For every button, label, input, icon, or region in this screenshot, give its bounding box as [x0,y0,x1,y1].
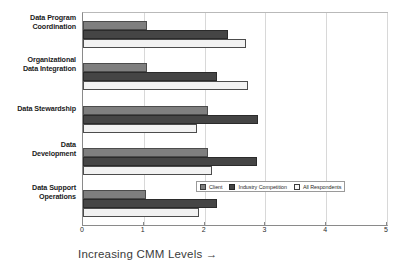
category-label-line: Data Integration [0,65,76,74]
x-tick-label: 5 [376,226,396,233]
bar [83,106,208,115]
bar [83,208,199,217]
legend-entry: Industry Competition [229,184,286,190]
x-tick-label: 1 [133,226,153,233]
bar [83,124,197,133]
legend-label: All Respondents [303,184,342,190]
category-label: Data Development [0,141,76,158]
bar-group [83,21,387,48]
plot-area [82,12,388,226]
category-label: Data Support Operations [0,184,76,201]
category-label-line: Development [0,150,76,159]
legend-label: Industry Competition [238,184,286,190]
bar-group [83,148,387,175]
bar [83,21,147,30]
legend-swatch-icon [200,184,206,190]
x-tick-mark [143,222,144,225]
x-tick-label: 3 [254,226,274,233]
legend-swatch-icon [229,184,235,190]
category-label: Organizational Data Integration [0,56,76,73]
bar [83,63,147,72]
bar-group [83,63,387,90]
bar [83,190,146,199]
x-axis-title: Increasing CMM Levels → [78,248,217,260]
category-label-line: Operations [0,193,76,202]
category-label: Data Program Coordination [0,14,76,31]
bar [83,115,258,124]
x-tick-mark [204,222,205,225]
bar [83,81,248,90]
x-tick-mark [264,222,265,225]
chart-legend: ClientIndustry CompetitionAll Respondent… [196,181,345,192]
x-tick-label: 4 [315,226,335,233]
legend-label: Client [209,184,222,190]
bar [83,199,217,208]
category-label-line: Coordination [0,23,76,32]
legend-entry: Client [200,184,222,190]
bar-group [83,190,387,217]
bar [83,39,246,48]
bar [83,157,257,166]
x-tick-mark [325,222,326,225]
bar-group [83,106,387,133]
x-tick-mark [386,222,387,225]
bar [83,166,212,175]
x-tick-label: 0 [72,226,92,233]
gridline [387,13,388,225]
legend-swatch-icon [294,184,300,190]
x-tick-mark [82,222,83,225]
bar [83,148,208,157]
category-label: Data Stewardship [0,105,76,114]
bar-chart: Data Program Coordination Organizational… [0,0,409,279]
legend-entry: All Respondents [294,184,342,190]
bar [83,30,228,39]
category-label-line: Data Stewardship [0,105,76,114]
category-axis-labels: Data Program Coordination Organizational… [0,12,78,224]
bar [83,72,217,81]
x-tick-label: 2 [194,226,214,233]
x-axis-ticks: 012345 [82,226,387,238]
